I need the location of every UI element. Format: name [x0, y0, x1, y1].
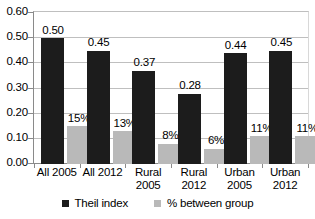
bar-group: 0.5015% — [34, 0, 80, 164]
legend-item[interactable]: Theil index — [62, 198, 128, 210]
bars-layer: 0.5015%0.4513%0.378%0.286%0.4411%0.4511% — [34, 12, 308, 164]
y-axis-tick-mark — [28, 113, 33, 114]
y-axis-tick-label: 0.00 — [0, 157, 28, 169]
x-axis-labels: All 2005All 2012Rural 2005Rural 2012Urba… — [34, 166, 308, 194]
y-axis-tick-mark — [28, 37, 33, 38]
bar-percent-between-group — [295, 136, 315, 164]
y-axis-tick-label: 0.60 — [0, 6, 28, 18]
y-axis-tick-label: 0.50 — [0, 31, 28, 43]
bar-group: 0.4411% — [217, 0, 263, 164]
bar-group: 0.4511% — [262, 0, 308, 164]
bar-value-label-theil-index: 0.45 — [260, 37, 302, 49]
bar-value-label-theil-index: 0.50 — [32, 25, 74, 37]
y-axis-tick-mark — [28, 138, 33, 139]
bar-group: 0.286% — [171, 0, 217, 164]
legend-swatch-icon — [154, 200, 161, 207]
legend-swatch-icon — [62, 200, 69, 207]
y-axis-tick-label: 0.20 — [0, 107, 28, 119]
bar-value-label-theil-index: 0.28 — [169, 80, 211, 92]
bar-chart: 0.600.500.400.300.200.100.00 0.5015%0.45… — [0, 0, 315, 219]
y-axis-tick-label: 0.40 — [0, 56, 28, 68]
y-axis-tick-mark — [28, 163, 33, 164]
legend-label: Theil index — [75, 198, 128, 210]
bar-theil-index — [224, 53, 247, 164]
bar-theil-index — [87, 51, 110, 164]
legend-item[interactable]: % between group — [154, 198, 254, 210]
y-axis-tick-mark — [28, 12, 33, 13]
legend-label: % between group — [167, 198, 254, 210]
bar-theil-index — [178, 94, 201, 164]
bar-theil-index — [132, 71, 155, 164]
y-axis-tick-label: 0.10 — [0, 132, 28, 144]
bar-value-label-theil-index: 0.37 — [123, 57, 165, 69]
bar-theil-index — [269, 51, 292, 164]
chart-legend: Theil index% between group — [0, 198, 315, 210]
bar-theil-index — [41, 38, 64, 164]
bar-value-label-theil-index: 0.45 — [78, 37, 120, 49]
y-axis-tick-mark — [28, 88, 33, 89]
bar-group: 0.378% — [125, 0, 171, 164]
bar-group: 0.4513% — [80, 0, 126, 164]
y-axis-tick-mark — [28, 62, 33, 63]
bar-value-label-percent-between-group: 11% — [288, 123, 315, 135]
x-axis-category-label: Urban 2012 — [253, 166, 315, 192]
bar-value-label-theil-index: 0.44 — [215, 40, 257, 52]
y-axis-tick-label: 0.30 — [0, 82, 28, 94]
